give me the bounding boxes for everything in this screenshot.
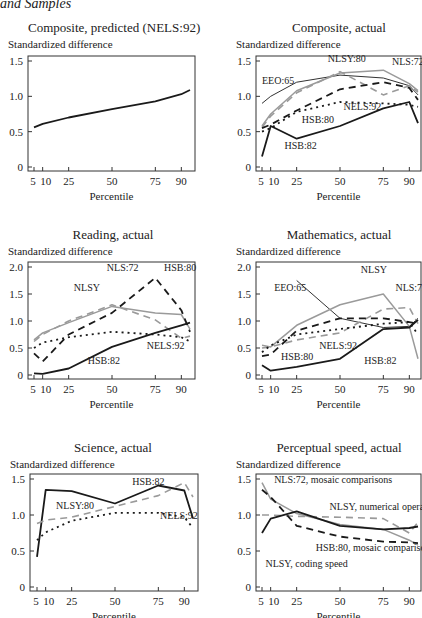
x-tick-label: 10 [43, 595, 55, 607]
x-tick-label: 90 [179, 595, 191, 607]
x-tick-label: 25 [63, 175, 75, 187]
x-tick-label: 10 [40, 175, 52, 187]
series-line-nlsy [34, 305, 190, 342]
series-annotation: NELS:92 [319, 340, 357, 351]
x-tick-label: 10 [268, 383, 280, 395]
series-annotation: HSB:80, mosaic comparisons [316, 542, 422, 553]
chart-panel-composite_predicted: 00.51.01.551025507590Percentile [9, 55, 195, 202]
x-tick-label: 75 [150, 383, 162, 395]
plot-frame [256, 474, 421, 591]
plot-frame [28, 56, 195, 171]
x-tick-label: 25 [66, 595, 78, 607]
y-tick-label: 2.0 [237, 261, 251, 273]
y-tick-label: 1.0 [237, 90, 251, 102]
x-axis-label: Percentile [90, 190, 134, 202]
x-tick-label: 10 [40, 383, 52, 395]
series-line-nls-72 [34, 306, 190, 340]
series-line-nels-92-predicted [34, 90, 190, 127]
x-tick-label: 5 [258, 383, 264, 395]
chart-panel-composite_actual: 00.51.01.551025507590PercentileEEO:65NLS… [237, 53, 422, 202]
series-annotation: NLS:72, mosaic comparisons [274, 474, 392, 485]
series-annotation: HSB:80 [164, 262, 196, 273]
series-annotation: HSB:80 [281, 351, 313, 362]
x-tick-label: 5 [258, 175, 264, 187]
series-annotation: EEO:65 [262, 75, 294, 86]
series-annotation: NELS:92 [147, 340, 185, 351]
series-annotation: NLSY, numerical operations [330, 501, 422, 512]
chart-panel-perceptual_speed_actual: 00.51.01.551025507590PercentileNLS:72, m… [237, 473, 422, 618]
y-tick-label: 0.5 [237, 342, 251, 354]
y-tick-label: 0.5 [237, 126, 251, 138]
y-tick-label: 0 [246, 369, 252, 381]
series-annotation: NLSY, coding speed [265, 558, 347, 569]
x-tick-label: 50 [335, 175, 347, 187]
y-tick-label: 1.0 [237, 509, 251, 521]
y-tick-label: 1.0 [9, 315, 23, 327]
y-tick-label: 0.5 [9, 126, 23, 138]
x-axis-label: Percentile [90, 398, 134, 410]
series-annotation: HSB:82 [285, 140, 317, 151]
series-annotation: NLSY [361, 264, 387, 275]
y-tick-label: 1.0 [11, 509, 25, 521]
series-annotation: NLS:72 [392, 56, 422, 67]
y-tick-label: 0 [246, 161, 252, 173]
y-tick-label: 1.5 [9, 55, 23, 67]
y-tick-label: 1.5 [9, 288, 23, 300]
series-annotation: NLSY:80 [56, 500, 94, 511]
y-tick-label: 0 [20, 581, 26, 593]
series-line-nlsy-coding-speed [262, 511, 418, 533]
series-annotation: NLSY:80 [328, 53, 366, 64]
x-tick-label: 90 [404, 175, 416, 187]
series-annotation: HSB:82 [88, 355, 120, 366]
x-tick-label: 25 [63, 383, 75, 395]
series-line-hsb-82 [37, 486, 193, 557]
series-annotation: HSB:82 [132, 476, 164, 487]
charts-canvas: 00.51.01.551025507590Percentile00.51.01.… [0, 0, 422, 618]
x-tick-label: 50 [335, 383, 347, 395]
series-annotation: NLSY [74, 282, 100, 293]
chart-panel-reading_actual: 00.51.01.52.051025507590PercentileNLS:72… [9, 261, 196, 410]
x-tick-label: 5 [30, 383, 36, 395]
x-tick-label: 25 [291, 595, 303, 607]
y-tick-label: 0.5 [11, 545, 25, 557]
y-tick-label: 2.0 [9, 261, 23, 273]
y-tick-label: 0 [18, 369, 24, 381]
x-tick-label: 5 [33, 595, 39, 607]
y-tick-label: 1.0 [9, 90, 23, 102]
x-tick-label: 90 [404, 383, 416, 395]
series-annotation: NELS:92 [160, 510, 198, 521]
x-tick-label: 75 [378, 175, 390, 187]
y-tick-label: 1.5 [237, 473, 251, 485]
series-annotation: NLS:72 [395, 282, 422, 293]
series-annotation: HSB:82 [364, 355, 396, 366]
x-tick-label: 50 [107, 383, 119, 395]
y-tick-label: 1.5 [11, 473, 25, 485]
x-tick-label: 50 [107, 175, 119, 187]
y-tick-label: 0 [18, 161, 24, 173]
x-tick-label: 90 [176, 383, 188, 395]
chart-panel-science_actual: 00.51.01.551025507590PercentileHSB:82NLS… [11, 473, 198, 618]
x-tick-label: 90 [176, 175, 188, 187]
plot-frame [30, 474, 198, 591]
x-tick-label: 5 [258, 595, 264, 607]
series-annotation: HSB:80 [302, 114, 334, 125]
x-axis-label: Percentile [92, 610, 136, 618]
x-tick-label: 25 [291, 175, 303, 187]
x-tick-label: 5 [30, 175, 36, 187]
chart-panel-mathematics_actual: 00.51.01.52.051025507590PercentileEEO:65… [237, 261, 422, 410]
series-annotation: EEO:65 [274, 282, 306, 293]
y-tick-label: 1.5 [237, 288, 251, 300]
x-tick-label: 75 [153, 595, 165, 607]
x-tick-label: 10 [268, 595, 280, 607]
x-tick-label: 25 [291, 383, 303, 395]
y-tick-label: 1.5 [237, 55, 251, 67]
series-annotation: NELS:92 [343, 101, 381, 112]
y-tick-label: 0.5 [9, 342, 23, 354]
series-annotation: NLS:72 [107, 262, 139, 273]
x-tick-label: 75 [378, 383, 390, 395]
y-tick-label: 0 [246, 581, 252, 593]
x-axis-label: Percentile [317, 398, 361, 410]
x-tick-label: 50 [110, 595, 122, 607]
x-tick-label: 10 [268, 175, 280, 187]
x-tick-label: 75 [378, 595, 390, 607]
